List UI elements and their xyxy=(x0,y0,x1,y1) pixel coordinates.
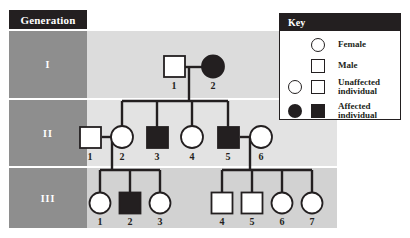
individual-ii-6-label: 6 xyxy=(259,151,264,162)
key-row-female-icons xyxy=(280,34,338,55)
key-label-female-line1: Female xyxy=(338,40,366,50)
key-label-affected-line2: individual xyxy=(338,111,377,121)
key-title: Key xyxy=(280,14,400,31)
individual-i-2-symbol xyxy=(202,56,224,78)
square-open-icon xyxy=(311,80,325,94)
key-row-male-icons xyxy=(280,55,338,76)
key-label-male: Male xyxy=(338,61,358,71)
individual-iii-2-label: 2 xyxy=(128,216,133,227)
key-row-unaffected-icons xyxy=(280,75,338,99)
individual-iii-3-label: 3 xyxy=(158,216,163,227)
individual-ii-5-label: 5 xyxy=(226,151,231,162)
square-open-icon xyxy=(311,59,325,73)
key-label-female: Female xyxy=(338,40,366,50)
individual-iii-1-label: 1 xyxy=(98,216,103,227)
key-label-unaffected: Unaffected individual xyxy=(338,78,380,97)
circle-filled-icon xyxy=(288,104,302,118)
individual-iii-4-label: 4 xyxy=(220,216,225,227)
pedigree-figure: Generation I II III xyxy=(0,0,410,238)
individual-iii-1-symbol xyxy=(90,193,111,214)
individual-ii-4-symbol xyxy=(181,126,203,148)
individual-iii-5-label: 5 xyxy=(250,216,255,227)
individual-ii-6-symbol xyxy=(250,126,272,148)
individual-ii-1-symbol xyxy=(80,127,101,148)
individual-i-2-label: 2 xyxy=(211,80,216,91)
individual-iii-6-label: 6 xyxy=(280,216,285,227)
key-row-affected-icons xyxy=(280,99,338,123)
key-label-unaffected-line2: individual xyxy=(338,87,380,97)
key-label-male-line1: Male xyxy=(338,61,358,71)
individual-ii-2-label: 2 xyxy=(120,151,125,162)
individual-iii-7-label: 7 xyxy=(310,216,315,227)
individual-iii-6-symbol xyxy=(272,193,293,214)
individual-iii-4-symbol xyxy=(212,193,233,214)
individual-iii-7-symbol xyxy=(302,193,323,214)
circle-open-icon xyxy=(288,80,302,94)
individual-ii-1-label: 1 xyxy=(88,151,93,162)
individual-ii-3-symbol xyxy=(147,127,168,148)
individual-iii-3-symbol xyxy=(150,193,171,214)
key-row-female: Female xyxy=(280,34,400,55)
circle-open-icon xyxy=(311,38,325,52)
individual-iii-5-symbol xyxy=(242,193,263,214)
key-label-affected: Affected individual xyxy=(338,102,377,121)
individual-ii-3-label: 3 xyxy=(155,151,160,162)
key-row-affected: Affected individual xyxy=(280,99,400,123)
individual-ii-5-symbol xyxy=(218,127,239,148)
individual-ii-2-symbol xyxy=(111,126,133,148)
key-row-unaffected: Unaffected individual xyxy=(280,75,400,99)
key-row-male: Male xyxy=(280,55,400,76)
individual-i-1-symbol xyxy=(164,56,185,77)
individual-ii-4-label: 4 xyxy=(190,151,195,162)
individual-iii-2-symbol xyxy=(120,193,141,214)
key-legend-box: Key Female Male Unaffected xyxy=(279,13,401,120)
square-filled-icon xyxy=(311,104,325,118)
individual-i-1-label: 1 xyxy=(172,80,177,91)
